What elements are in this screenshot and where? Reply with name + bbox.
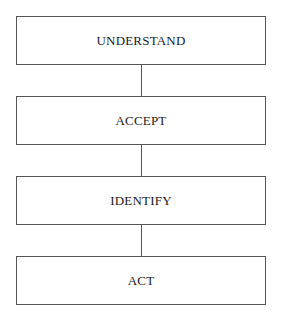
connector-line [141,65,142,96]
step-box-act: ACT [16,256,266,305]
step-box-accept: ACCEPT [16,96,266,145]
step-label: ACT [128,273,155,289]
step-label: ACCEPT [115,113,166,129]
step-box-understand: UNDERSTAND [16,16,266,65]
step-box-identify: IDENTIFY [16,176,266,225]
step-label: UNDERSTAND [96,33,185,49]
connector-line [141,225,142,256]
step-label: IDENTIFY [110,193,172,209]
connector-line [141,145,142,176]
